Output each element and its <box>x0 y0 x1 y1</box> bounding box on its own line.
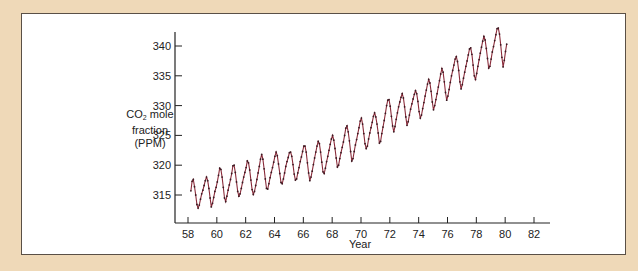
data-point <box>500 44 502 46</box>
data-point <box>392 125 394 127</box>
data-point <box>413 93 415 95</box>
data-point <box>220 169 222 171</box>
data-point <box>477 65 479 67</box>
data-point <box>482 40 484 42</box>
data-point <box>446 99 448 101</box>
data-point <box>333 139 335 141</box>
data-point <box>466 60 468 62</box>
y-axis-title-unit: (PPM) <box>134 137 165 149</box>
data-point <box>337 166 339 168</box>
data-point <box>196 204 198 206</box>
data-point <box>488 67 490 69</box>
data-point <box>478 59 480 61</box>
data-point <box>405 116 407 118</box>
data-point <box>442 71 444 73</box>
data-point <box>365 148 367 150</box>
data-point <box>443 81 445 83</box>
data-point <box>409 114 411 116</box>
data-point <box>412 98 414 100</box>
data-point <box>340 152 342 154</box>
data-point <box>204 180 206 182</box>
data-point <box>268 183 270 185</box>
data-point <box>349 140 351 142</box>
data-point <box>385 112 387 114</box>
data-point <box>415 90 417 92</box>
data-point <box>473 75 475 77</box>
y-tick-label: 340 <box>153 40 171 52</box>
data-point <box>379 142 381 144</box>
data-point <box>428 79 430 81</box>
data-point <box>382 126 384 128</box>
data-point <box>307 162 309 164</box>
data-point <box>215 186 217 188</box>
y-axis-title: CO2 mole fraction (PPM) <box>110 108 190 150</box>
data-point <box>399 101 401 103</box>
data-point <box>316 145 318 147</box>
data-point <box>467 54 469 56</box>
data-point <box>489 65 491 67</box>
data-point <box>455 56 457 58</box>
data-point <box>479 52 481 54</box>
data-point <box>272 167 274 169</box>
data-point <box>213 197 215 199</box>
x-tick-label: 62 <box>240 228 252 240</box>
data-point <box>484 39 486 41</box>
data-point <box>218 174 220 176</box>
data-point <box>367 145 369 147</box>
data-point <box>274 155 276 157</box>
data-point <box>472 64 474 66</box>
data-point <box>315 151 317 153</box>
data-point <box>298 167 300 169</box>
data-point <box>309 180 311 182</box>
data-point <box>355 144 357 146</box>
data-point <box>431 101 433 103</box>
data-point <box>343 141 345 143</box>
data-point <box>260 158 262 160</box>
data-point <box>375 116 377 118</box>
data-point <box>350 151 352 153</box>
data-point <box>243 176 245 178</box>
data-point <box>313 164 315 166</box>
data-point <box>485 48 487 50</box>
data-point <box>416 93 418 95</box>
data-point <box>287 157 289 159</box>
data-point <box>397 112 399 114</box>
data-point <box>471 53 473 55</box>
data-point <box>373 115 375 117</box>
data-point <box>398 106 400 108</box>
data-point <box>273 161 275 163</box>
data-point <box>203 185 205 187</box>
data-point <box>434 105 436 107</box>
data-point <box>290 151 292 153</box>
data-point <box>388 99 390 101</box>
data-point <box>297 172 299 174</box>
x-axis: 58606264666870727476788082 <box>175 217 550 240</box>
data-point <box>270 172 272 174</box>
data-point <box>381 133 383 135</box>
data-point <box>286 161 288 163</box>
data-point <box>252 194 254 196</box>
data-point <box>262 158 264 160</box>
data-point <box>445 92 447 94</box>
data-point <box>386 105 388 107</box>
data-point <box>459 81 461 83</box>
data-point <box>283 178 285 180</box>
data-point <box>353 151 355 153</box>
data-point <box>391 115 393 117</box>
data-point <box>481 46 483 48</box>
data-point <box>383 120 385 122</box>
data-point <box>332 135 334 137</box>
x-tick-label: 60 <box>211 228 223 240</box>
data-point <box>237 191 239 193</box>
data-point <box>506 43 508 45</box>
data-point <box>281 183 283 185</box>
data-point <box>319 143 321 145</box>
data-point <box>429 82 431 84</box>
data-point <box>505 51 507 53</box>
data-point <box>502 66 504 68</box>
data-point <box>331 138 333 140</box>
data-point <box>234 172 236 174</box>
data-point <box>411 103 413 105</box>
data-point <box>427 83 429 85</box>
data-point <box>341 146 343 148</box>
